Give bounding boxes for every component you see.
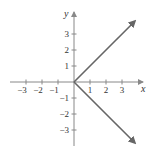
x-tick-label: −3 — [17, 85, 27, 95]
x-tick-label: 3 — [120, 85, 125, 95]
y-tick-label: 2 — [65, 45, 70, 55]
y-axis-label: y — [63, 8, 69, 19]
x-tick-label: −1 — [49, 85, 59, 95]
y-tick-label: −2 — [59, 109, 69, 119]
x-tick-label: 2 — [104, 85, 109, 95]
x-tick-label: 1 — [88, 85, 93, 95]
y-tick-label: 3 — [65, 29, 70, 39]
y-tick-label: 1 — [65, 61, 70, 71]
ray-line — [74, 21, 135, 82]
x-tick-label: −2 — [33, 85, 43, 95]
x-axis-label: x — [140, 83, 146, 94]
chart: −3−2−1123 −3−2−1123 x y — [0, 0, 154, 162]
y-tick-label: −1 — [59, 93, 69, 103]
y-tick-label: −3 — [59, 125, 69, 135]
